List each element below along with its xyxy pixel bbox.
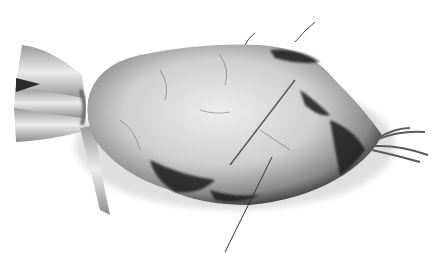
root-hairs-top xyxy=(245,22,315,45)
beet-photo xyxy=(0,0,443,253)
beet-illustration xyxy=(0,0,443,253)
